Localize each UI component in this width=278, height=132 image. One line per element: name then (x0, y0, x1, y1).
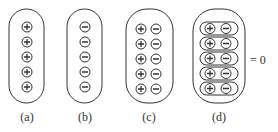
charges-a (22, 22, 32, 92)
charges-b (80, 22, 90, 92)
label-b: (b) (78, 110, 92, 125)
charge-pairs-d (200, 22, 238, 95)
capsule-b (67, 9, 102, 103)
label-c: (c) (142, 110, 155, 125)
label-d: (d) (212, 110, 226, 125)
label-a: (a) (20, 110, 33, 125)
charges-c (136, 24, 161, 94)
charge-diagram (0, 0, 278, 132)
capsule-c (126, 9, 173, 103)
equals-zero: = 0 (250, 53, 266, 68)
